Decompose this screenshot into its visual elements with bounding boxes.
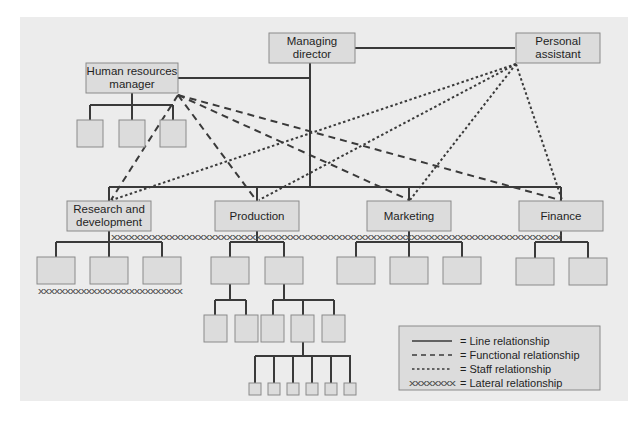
node-production[interactable]: Production (215, 201, 299, 231)
legend: = Line relationship = Functional relatio… (399, 326, 600, 390)
node-marketing[interactable]: Marketing (367, 201, 451, 231)
node-managing-director[interactable]: Managing director (269, 33, 355, 63)
level4-boxes (204, 315, 345, 342)
node-research-development[interactable]: Research and development (67, 201, 151, 231)
prod-level5-box[interactable] (325, 383, 337, 395)
personal-assistant-line1: Personal (535, 35, 580, 47)
mkt-sub-box[interactable] (443, 257, 481, 284)
node-finance[interactable]: Finance (519, 201, 603, 231)
fin-sub-box[interactable] (569, 258, 607, 285)
prod-level5-box[interactable] (287, 383, 299, 395)
prod-level4-box[interactable] (322, 315, 345, 342)
hr-sub-box[interactable] (77, 120, 103, 147)
personal-assistant-line2: assistant (535, 48, 581, 60)
hr-sub-box[interactable] (119, 120, 145, 147)
node-hr-manager[interactable]: Human resources manager (86, 63, 178, 93)
rd-line2: development (76, 216, 143, 228)
finance-label: Finance (541, 210, 582, 222)
production-label: Production (230, 210, 285, 222)
hr-manager-line1: Human resources (87, 65, 178, 77)
prod-sub-box[interactable] (265, 257, 303, 284)
legend-functional-label: = Functional relationship (460, 349, 580, 361)
prod-level4-box[interactable] (291, 315, 314, 342)
rd-sub-box[interactable] (37, 257, 75, 284)
prod-level4-box[interactable] (235, 315, 258, 342)
hr-subordinates (77, 120, 186, 147)
node-personal-assistant[interactable]: Personal assistant (516, 33, 600, 63)
prod-level5-box[interactable] (268, 383, 280, 395)
mkt-sub-box[interactable] (337, 257, 375, 284)
rd-sub-box[interactable] (90, 257, 128, 284)
lateral-dept-row: xxxxxxxxxxxxxxxxxxxxxxxxxxxxxxxxxxxxxxxx… (111, 232, 563, 242)
prod-level5-box[interactable] (249, 383, 261, 395)
mkt-sub-box[interactable] (390, 257, 428, 284)
lateral-rd-row: xxxxxxxxxxxxxxxxxxxxxxxxxxx (38, 286, 183, 296)
org-chart-diagram: Managing director Personal assistant Hum… (0, 0, 640, 421)
marketing-label: Marketing (384, 210, 435, 222)
hr-sub-box[interactable] (160, 120, 186, 147)
hr-manager-line2: manager (109, 78, 155, 90)
managing-director-line2: director (293, 48, 332, 60)
legend-lateral-label: = Lateral relationship (460, 377, 562, 389)
rd-line1: Research and (73, 203, 145, 215)
prod-level5-box[interactable] (344, 383, 356, 395)
rd-sub-box[interactable] (143, 257, 181, 284)
managing-director-line1: Managing (287, 35, 338, 47)
legend-line-label: = Line relationship (460, 335, 550, 347)
prod-sub-box[interactable] (211, 257, 249, 284)
prod-level4-box[interactable] (261, 315, 284, 342)
legend-staff-label: = Staff relationship (460, 363, 551, 375)
prod-level5-box[interactable] (306, 383, 318, 395)
prod-level4-box[interactable] (204, 315, 227, 342)
legend-lateral-swatch: xxxxxxxx (409, 378, 457, 388)
fin-sub-box[interactable] (516, 258, 554, 285)
